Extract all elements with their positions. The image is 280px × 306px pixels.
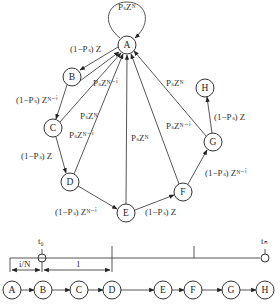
label-b-c: (1−Pₛ) Zᴺ⁻ⁱ	[16, 95, 58, 105]
seq-node-a: A	[3, 281, 21, 299]
edge-f-to-a	[131, 54, 179, 184]
edge-e-to-a	[126, 55, 127, 204]
edge-f-to-g	[188, 150, 207, 184]
t0-label: t₀	[38, 236, 44, 246]
seq-node-e-label: E	[160, 285, 166, 295]
offset-label: i/N	[19, 259, 31, 269]
seq-node-g-label: G	[228, 285, 235, 295]
unit-label: 1	[76, 259, 81, 269]
node-f-label: F	[180, 187, 185, 197]
label-g-a: PₛZᴺ	[166, 78, 184, 88]
label-e-f: (1−Pₛ) Z	[145, 207, 176, 217]
sequence-row: A B C D E F G H	[3, 281, 274, 299]
seq-node-c-label: C	[76, 285, 82, 295]
node-b: B	[63, 68, 81, 86]
timeline: t₀ tₙ i/N 1	[10, 236, 269, 272]
node-b-label: B	[69, 72, 75, 82]
state-diagram: PₛZᴺ (1−Pₛ) Z PₛZᴺ⁻ⁱ (1−Pₛ) Zᴺ⁻ⁱ PₛZᴺ (1…	[0, 0, 280, 306]
tn-label: tₙ	[261, 236, 268, 246]
label-d-e: (1−Pₛ) Zᴺ⁻ⁱ	[55, 207, 97, 217]
seq-node-h: H	[256, 281, 274, 299]
label-b-a: PₛZᴺ⁻ⁱ	[93, 78, 118, 88]
seq-node-e: E	[154, 281, 172, 299]
seq-node-d: D	[103, 281, 121, 299]
seq-node-b-label: B	[40, 285, 46, 295]
node-a: A	[118, 36, 136, 54]
label-f-a: PₛZᴺ⁻ⁱ	[166, 121, 191, 131]
node-c: C	[44, 119, 62, 137]
node-f: F	[174, 183, 192, 201]
label-a-b: (1−Pₛ) Z	[70, 44, 101, 54]
seq-node-g: G	[222, 281, 240, 299]
node-g: G	[204, 133, 222, 151]
label-c-d: (1−Pₛ) Z	[21, 151, 52, 161]
label-c-a: PₛZᴺ	[80, 111, 98, 121]
tn-marker	[261, 254, 269, 262]
seq-node-f-label: F	[190, 285, 195, 295]
edge-c-to-d	[56, 137, 66, 173]
label-f-g: (1−Pₛ) Zᴺ⁻ⁱ	[205, 168, 247, 178]
node-e-label: E	[123, 208, 129, 218]
node-e: E	[117, 204, 135, 222]
edge-d-to-e	[78, 186, 117, 209]
node-h: H	[196, 79, 214, 97]
label-e-a: PₛZᴺ	[131, 133, 149, 143]
seq-node-b: B	[34, 281, 52, 299]
node-d: D	[61, 173, 79, 191]
seq-node-f: F	[184, 281, 202, 299]
node-h-label: H	[202, 83, 209, 93]
edge-g-to-h	[207, 97, 212, 133]
seq-node-c: C	[70, 281, 88, 299]
label-g-h: (1−Pₛ) Z	[214, 112, 245, 122]
seq-node-h-label: H	[262, 285, 269, 295]
node-d-label: D	[67, 177, 74, 187]
label-self-loop: PₛZᴺ	[118, 2, 136, 12]
node-c-label: C	[50, 123, 56, 133]
node-g-label: G	[210, 137, 217, 147]
label-d-a: PₛZᴺ⁻ⁱ	[69, 130, 94, 140]
seq-node-d-label: D	[109, 285, 116, 295]
seq-node-a-label: A	[9, 285, 16, 295]
node-a-label: A	[124, 40, 131, 50]
